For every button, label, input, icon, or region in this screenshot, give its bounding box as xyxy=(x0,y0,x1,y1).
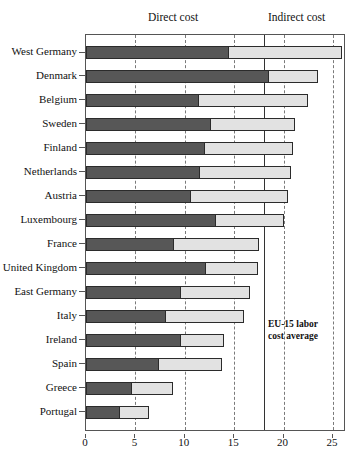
bar-segment-indirect xyxy=(204,142,294,155)
plot-area xyxy=(85,34,345,431)
labor-cost-chart: Direct cost Indirect cost West GermanyDe… xyxy=(0,0,357,465)
category-label: Greece xyxy=(46,381,77,394)
value-axis: 0510152025 xyxy=(0,434,357,454)
bar-segment-indirect xyxy=(158,358,222,371)
bar-segment-indirect xyxy=(215,214,283,227)
category-label: Sweden xyxy=(42,117,77,130)
legend-label-indirect-cost: Indirect cost xyxy=(268,11,325,23)
category-label: Netherlands xyxy=(24,165,77,178)
x-tick-label: 25 xyxy=(327,436,338,448)
bar-segment-indirect xyxy=(119,406,150,419)
bar-segment-direct xyxy=(86,358,159,371)
category-label: Finland xyxy=(43,141,77,154)
bar-segment-indirect xyxy=(190,190,288,203)
bar-segment-direct xyxy=(86,190,191,203)
x-tick-label: 5 xyxy=(132,436,138,448)
category-label: Belgium xyxy=(39,93,77,106)
bar-segment-direct xyxy=(86,286,181,299)
category-axis: West GermanyDenmarkBelgiumSwedenFinlandN… xyxy=(0,34,85,431)
bar-segment-indirect xyxy=(210,118,295,131)
bar-segment-indirect xyxy=(165,310,244,323)
bar-segment-indirect xyxy=(228,46,342,59)
category-label: Luxembourg xyxy=(20,213,77,226)
bar-segment-direct xyxy=(86,214,216,227)
bar-segment-direct xyxy=(86,310,166,323)
bar-segment-indirect xyxy=(131,382,173,395)
category-label: Italy xyxy=(57,309,77,322)
x-tick-label: 0 xyxy=(82,436,88,448)
bars-layer xyxy=(86,35,344,430)
category-label: Spain xyxy=(52,357,77,370)
x-tick-label: 20 xyxy=(277,436,288,448)
bar-segment-direct xyxy=(86,70,269,83)
bar-segment-direct xyxy=(86,46,229,59)
category-label: Ireland xyxy=(46,333,77,346)
bar-segment-indirect xyxy=(180,286,250,299)
bar-segment-indirect xyxy=(205,262,258,275)
category-label: Denmark xyxy=(36,69,77,82)
bar-segment-direct xyxy=(86,238,174,251)
bar-segment-indirect xyxy=(199,166,291,179)
eu15-annotation-line2: cost average xyxy=(268,330,318,342)
bar-segment-direct xyxy=(86,142,205,155)
eu15-annotation-line1: EU-15 labor xyxy=(268,318,318,330)
bar-segment-direct xyxy=(86,118,211,131)
category-label: Portugal xyxy=(40,405,77,418)
bar-segment-indirect xyxy=(198,94,309,107)
bar-segment-direct xyxy=(86,166,200,179)
chart-legend: Direct cost Indirect cost xyxy=(0,0,357,32)
category-label: France xyxy=(47,237,77,250)
bar-segment-indirect xyxy=(268,70,318,83)
category-label: West Germany xyxy=(12,45,77,58)
bar-segment-direct xyxy=(86,406,120,419)
category-label: East Germany xyxy=(14,285,77,298)
bar-segment-direct xyxy=(86,334,181,347)
bar-segment-direct xyxy=(86,382,132,395)
category-label: Austria xyxy=(45,189,77,202)
legend-label-direct-cost: Direct cost xyxy=(148,11,198,23)
category-label: United Kingdom xyxy=(3,261,77,274)
bar-segment-indirect xyxy=(173,238,259,251)
x-tick-label: 15 xyxy=(228,436,239,448)
bar-segment-indirect xyxy=(180,334,224,347)
bar-segment-direct xyxy=(86,94,199,107)
eu15-average-annotation: EU-15 labor cost average xyxy=(268,318,318,342)
x-tick-label: 10 xyxy=(178,436,189,448)
bar-segment-direct xyxy=(86,262,206,275)
